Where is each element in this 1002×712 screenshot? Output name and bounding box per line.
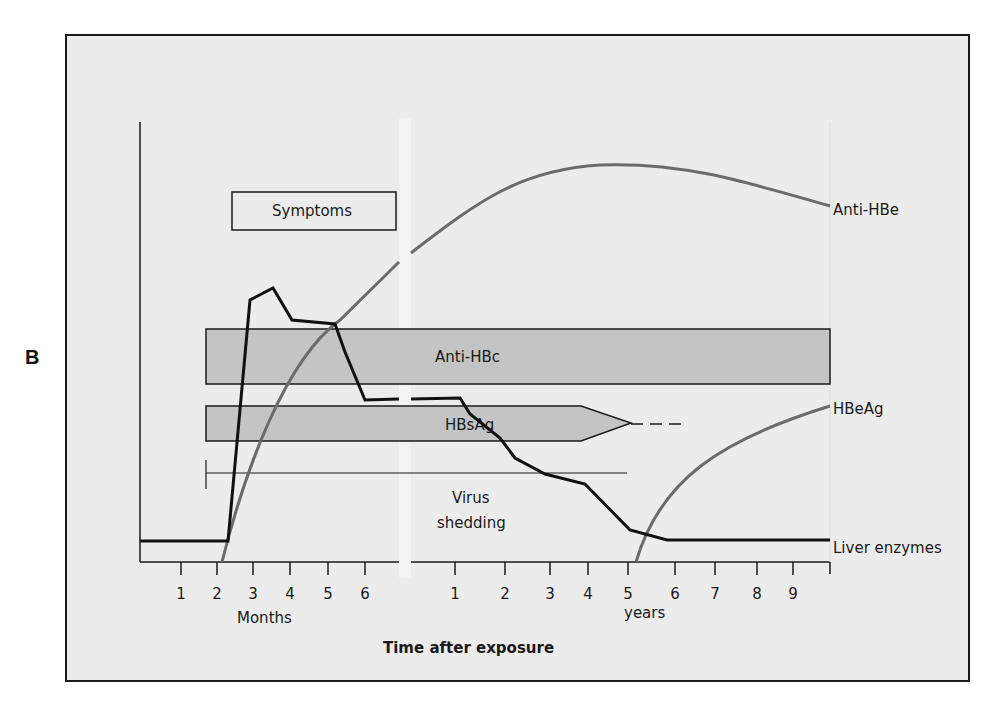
year-tick-label: 3 bbox=[545, 585, 555, 603]
anti-hbc-label: Anti-HBc bbox=[435, 348, 500, 366]
anti-hbc-bar bbox=[206, 329, 830, 384]
symptoms-label: Symptoms bbox=[272, 202, 352, 220]
year-tick-label: 6 bbox=[670, 585, 680, 603]
x-axis-title: Time after exposure bbox=[383, 639, 554, 657]
month-tick-label: 5 bbox=[323, 585, 333, 603]
month-tick-label: 6 bbox=[360, 585, 370, 603]
anti-hbe-label: Anti-HBe bbox=[833, 201, 899, 219]
year-tick-label: 7 bbox=[710, 585, 720, 603]
month-tick-label: 2 bbox=[212, 585, 222, 603]
months-label: Months bbox=[237, 609, 292, 627]
year-tick-label: 1 bbox=[450, 585, 460, 603]
virus-shedding-label-1: Virus bbox=[452, 489, 490, 507]
year-tick-label: 4 bbox=[583, 585, 593, 603]
month-tick-label: 4 bbox=[285, 585, 295, 603]
year-tick-label: 8 bbox=[752, 585, 762, 603]
liver-enzymes-label: Liver enzymes bbox=[833, 539, 942, 557]
year-tick-label: 2 bbox=[500, 585, 510, 603]
month-tick-label: 1 bbox=[176, 585, 186, 603]
hbsag-label: HBsAg bbox=[445, 416, 494, 434]
month-tick-label: 3 bbox=[248, 585, 258, 603]
years-label: years bbox=[624, 604, 665, 622]
hbsag-bar bbox=[206, 406, 631, 441]
year-tick-label: 5 bbox=[623, 585, 633, 603]
hepatitis-b-timecourse-figure: 123456 123456789 Symptoms Anti-HBc HBsAg… bbox=[0, 0, 1002, 712]
year-tick-label: 9 bbox=[788, 585, 798, 603]
hbeag-label: HBeAg bbox=[833, 400, 884, 418]
virus-shedding-label-2: shedding bbox=[437, 514, 506, 532]
